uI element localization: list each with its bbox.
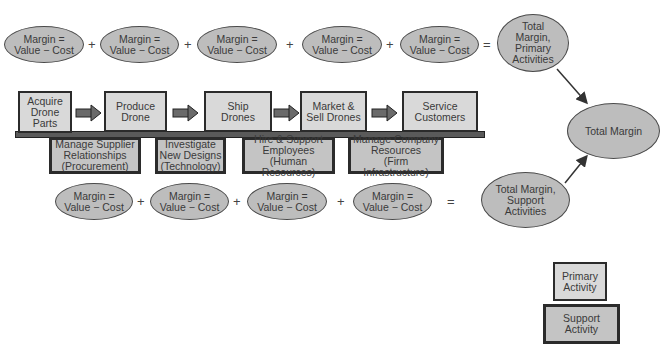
support-activity-firm-infrastructure: Manage Company Resources (Firm Infrastru… — [348, 137, 444, 174]
arrow-primary-to-total — [557, 69, 586, 102]
primary-activity-ship-drones: Ship Drones — [204, 91, 272, 132]
total-margin-primary-ellipse: Total Margin, Primary Activities — [497, 14, 569, 72]
plus-operator: + — [386, 38, 394, 51]
plus-operator: + — [184, 38, 192, 51]
equals-operator: = — [483, 38, 491, 51]
flow-arrow-2 — [173, 105, 198, 121]
legend-primary-activity: Primary Activity — [553, 262, 607, 301]
margin-ellipse-support-2: Margin = Value − Cost — [150, 183, 229, 220]
support-activity-technology: Investigate New Designs (Technology) — [155, 137, 226, 174]
margin-ellipse-primary-3: Margin = Value − Cost — [197, 26, 277, 63]
margin-ellipse-primary-1: Margin = Value − Cost — [4, 26, 84, 63]
arrow-support-to-total — [565, 157, 586, 183]
primary-activity-service-customers: Service Customers — [402, 91, 478, 132]
plus-operator: + — [137, 195, 145, 208]
margin-ellipse-primary-4: Margin = Value − Cost — [302, 26, 382, 63]
total-margin-ellipse: Total Margin — [567, 103, 660, 159]
equals-operator: = — [447, 195, 455, 208]
margin-ellipse-support-1: Margin = Value − Cost — [55, 183, 133, 220]
legend-support-activity: Support Activity — [543, 304, 620, 344]
primary-activity-market-sell: Market & Sell Drones — [300, 91, 367, 132]
plus-operator: + — [337, 195, 345, 208]
flow-arrow-4 — [372, 105, 397, 121]
plus-operator: + — [88, 38, 96, 51]
plus-operator: + — [286, 38, 294, 51]
support-activity-procurement: Manage Supplier Relationships (Procureme… — [49, 137, 141, 174]
flow-arrow-3 — [274, 105, 299, 121]
margin-ellipse-primary-2: Margin = Value − Cost — [100, 26, 179, 63]
primary-activity-produce-drone: Produce Drone — [104, 91, 167, 132]
primary-activity-acquire-parts: Acquire Drone Parts — [18, 91, 72, 133]
total-margin-support-ellipse: Total Margin, Support Activities — [481, 172, 570, 228]
margin-ellipse-support-4: Margin = Value − Cost — [353, 183, 432, 220]
margin-ellipse-support-3: Margin = Value − Cost — [247, 183, 327, 220]
support-activity-human-resources: Hire & Support Employees (Human Resource… — [242, 137, 335, 174]
margin-ellipse-primary-5: Margin = Value − Cost — [400, 26, 479, 63]
plus-operator: + — [233, 195, 241, 208]
flow-arrow-1 — [76, 105, 101, 121]
